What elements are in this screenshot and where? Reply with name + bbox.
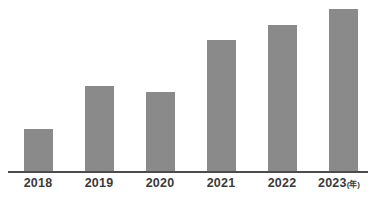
plot-area [0, 0, 374, 173]
x-tick-label-2021: 2021 [190, 176, 252, 190]
x-tick-label-2020: 2020 [129, 176, 191, 190]
x-tick-text-2022: 2022 [268, 176, 297, 190]
x-tick-text-2018: 2018 [24, 176, 53, 190]
bar-2023[interactable] [329, 9, 358, 173]
x-tick-label-2019: 2019 [68, 176, 130, 190]
bar-2021[interactable] [207, 40, 236, 173]
x-tick-text-2023: 2023 [318, 176, 347, 190]
x-tick-label-2023: 2023(年) [308, 176, 370, 190]
bar-2019[interactable] [85, 86, 114, 173]
x-tick-text-2021: 2021 [207, 176, 236, 190]
x-tick-text-2019: 2019 [85, 176, 114, 190]
x-tick-label-2022: 2022 [251, 176, 313, 190]
x-tick-label-2018: 2018 [7, 176, 69, 190]
x-axis-line [8, 171, 368, 173]
x-axis-tick-labels: 2018 2019 2020 2021 2022 2023(年) [0, 176, 374, 200]
bar-2020[interactable] [146, 92, 175, 173]
bar-chart: 2018 2019 2020 2021 2022 2023(年) [0, 0, 374, 200]
bar-2022[interactable] [268, 25, 297, 173]
bar-2018[interactable] [24, 129, 53, 173]
x-tick-text-2020: 2020 [146, 176, 175, 190]
x-axis-unit-note: (年) [347, 180, 360, 189]
